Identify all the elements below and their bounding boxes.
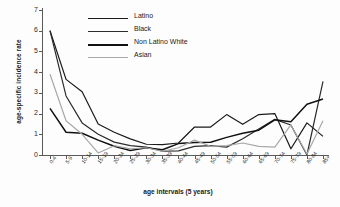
y-tick — [39, 155, 42, 156]
legend-swatch — [88, 18, 128, 19]
y-axis-title: age-specific incidence rate — [15, 12, 22, 152]
plot-area: 01234567 0-45-910-1415-1920-2425-2930-34… — [42, 8, 329, 156]
legend-label: Asian — [134, 51, 152, 58]
series-line-latino — [50, 31, 323, 149]
legend-label: Latino — [134, 12, 153, 19]
y-tick-label: 4 — [27, 68, 38, 75]
y-tick — [39, 134, 42, 135]
series-lines — [42, 8, 329, 156]
y-tick — [39, 51, 42, 52]
legend-label: Black — [134, 25, 151, 32]
x-axis-title: age intervals (5 years) — [108, 188, 248, 195]
y-tick-label: 5 — [27, 47, 38, 54]
legend-swatch — [88, 44, 128, 46]
y-tick-label: 2 — [27, 109, 38, 116]
y-tick-label: 3 — [27, 88, 38, 95]
legend-swatch — [88, 57, 128, 58]
legend-swatch — [88, 31, 128, 32]
legend-label: Non Latino White — [134, 38, 188, 45]
y-tick — [39, 93, 42, 94]
y-tick — [39, 72, 42, 73]
series-line-non-latino-white — [50, 99, 323, 150]
y-tick-label: 7 — [27, 6, 38, 13]
y-tick-label: 1 — [27, 130, 38, 137]
y-axis-line — [42, 8, 43, 156]
y-tick-label: 0 — [27, 151, 38, 158]
y-tick-label: 6 — [27, 26, 38, 33]
y-tick — [39, 10, 42, 11]
y-tick — [39, 114, 42, 115]
y-tick — [39, 31, 42, 32]
series-line-asian — [50, 74, 323, 154]
chart-figure: age-specific incidence rate age interval… — [0, 0, 340, 207]
